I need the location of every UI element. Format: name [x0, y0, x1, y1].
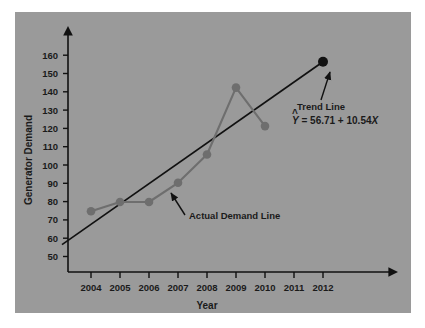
- y-tick-label: 60: [47, 233, 58, 244]
- equation-x-symbol: X: [371, 115, 380, 126]
- y-tick-label: 50: [47, 251, 58, 262]
- y-tick-label: 160: [42, 50, 58, 61]
- trend-line-annotation-label: Trend Line: [297, 101, 345, 112]
- x-axis-title: Year: [196, 300, 217, 311]
- data-point-marker: [116, 198, 125, 207]
- axis-group: [68, 34, 390, 272]
- x-tick-label: 2008: [196, 282, 217, 293]
- trend-line-annotation-equation: Y = 56.71 + 10.54X: [292, 115, 380, 126]
- x-tick-label: 2005: [109, 282, 131, 293]
- x-tick-label: 2011: [284, 282, 305, 293]
- y-tick-label: 100: [42, 160, 58, 171]
- y-tick-label: 150: [42, 68, 58, 79]
- data-point-marker: [87, 207, 96, 216]
- x-tick-label: 2012: [312, 282, 333, 293]
- x-axis-ticks: [91, 272, 323, 278]
- equation-body: = 56.71 + 10.54: [299, 115, 372, 126]
- data-point-marker: [145, 198, 154, 207]
- data-point-markers: [87, 57, 328, 216]
- y-tick-label: 130: [42, 105, 58, 116]
- data-point-marker: [174, 179, 183, 188]
- data-point-marker: [232, 83, 241, 92]
- data-point-marker: [203, 150, 212, 159]
- trend-line-annotation: Trend Line Y = 56.71 + 10.54X ^: [292, 72, 380, 126]
- x-tick-label: 2010: [254, 282, 275, 293]
- x-tick-label: 2006: [138, 282, 159, 293]
- chart-plot-area: 50 60 70 80 90 100 110 120 130 140 150 1…: [0, 0, 425, 328]
- y-tick-label: 140: [42, 86, 58, 97]
- y-tick-label: 70: [47, 214, 58, 225]
- y-axis-title: Generator Demand: [23, 115, 34, 205]
- actual-demand-annotation-leader: [171, 193, 185, 215]
- x-tick-label: 2007: [167, 282, 188, 293]
- y-tick-label: 90: [47, 178, 58, 189]
- trend-endpoint-marker: [318, 57, 328, 67]
- x-tick-label: 2004: [80, 282, 102, 293]
- x-axis-tick-labels: 2004 2005 2006 2007 2008 2009 2010 2011 …: [80, 282, 333, 293]
- y-tick-label: 120: [42, 123, 58, 134]
- y-tick-label: 80: [47, 196, 58, 207]
- actual-demand-line-annotation: Actual Demand Line: [171, 193, 280, 221]
- y-axis-tick-labels: 50 60 70 80 90 100 110 120 130 140 150 1…: [42, 50, 58, 262]
- actual-demand-line-series: [91, 88, 265, 212]
- chart-figure: 50 60 70 80 90 100 110 120 130 140 150 1…: [0, 0, 425, 328]
- actual-demand-annotation-label: Actual Demand Line: [189, 210, 280, 221]
- trend-line-annotation-leader: [321, 72, 330, 100]
- y-tick-label: 110: [43, 141, 58, 152]
- equation-hat-symbol: ^: [292, 108, 298, 119]
- data-point-marker: [261, 122, 270, 131]
- x-tick-label: 2009: [225, 282, 246, 293]
